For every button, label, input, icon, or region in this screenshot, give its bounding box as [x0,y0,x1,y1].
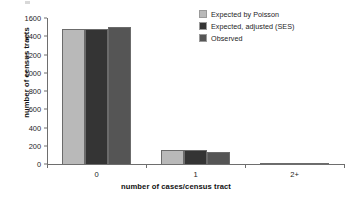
y-axis-title-container: number of census tracts [6,18,20,165]
x-axis-tick-mark [344,164,345,168]
x-axis-tick-mark [245,164,246,168]
bar[interactable] [108,27,131,164]
bar[interactable] [85,29,108,164]
y-axis-tick-mark [44,36,47,37]
bar[interactable] [260,163,283,164]
y-axis-tick-mark [44,127,47,128]
y-axis-tick-mark [44,145,47,146]
y-axis-tick-mark [44,18,47,19]
bar-group [62,27,131,164]
bar[interactable] [184,150,207,164]
y-axis-tick-mark [44,109,47,110]
y-axis-line [47,18,48,165]
x-axis-tick-mark [146,164,147,168]
plot-area: 02004006008001000120014001600 012+ [47,18,344,165]
bar[interactable] [306,163,329,164]
legend-swatch-icon [199,10,207,18]
bar[interactable] [62,29,85,164]
x-axis-tick-label: 2+ [290,170,299,179]
x-axis-line [47,164,344,165]
bar[interactable] [283,163,306,164]
x-axis-tick-label: 0 [94,170,98,179]
y-axis-tick-mark [44,91,47,92]
x-axis-tick-mark [47,164,48,168]
x-axis-title: number of cases/census tract [0,182,352,191]
x-axis-tick-label: 1 [193,170,197,179]
bar[interactable] [161,150,184,164]
bar-group [161,150,230,164]
bar-chart: Expected by PoissonExpected, adjusted (S… [0,0,352,203]
bar[interactable] [207,152,230,164]
bar-group [260,163,329,164]
y-axis-tick-mark [44,54,47,55]
y-axis-tick-mark [44,72,47,73]
